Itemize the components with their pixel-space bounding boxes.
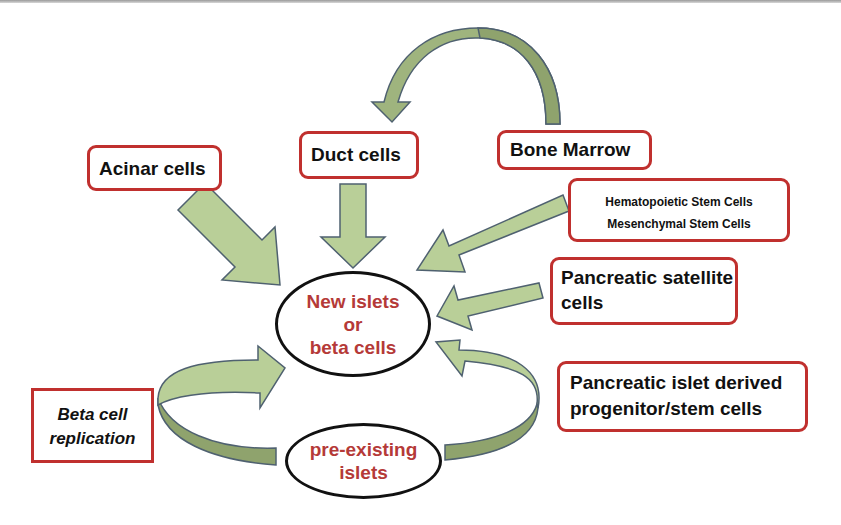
- node-new-islets-line2: or: [344, 313, 363, 336]
- node-bone-marrow-label: Bone Marrow: [510, 139, 649, 161]
- node-new-islets-line3: beta cells: [310, 336, 397, 359]
- arrow-stem-cells-to-center: [417, 195, 569, 272]
- node-pre-existing-islets: pre-existing islets: [285, 423, 442, 499]
- node-pre-existing-line1: pre-existing: [310, 438, 418, 461]
- node-islet-progenitor: Pancreatic islet derived progenitor/stem…: [557, 361, 808, 432]
- node-progenitor-line1: Pancreatic islet derived: [570, 370, 805, 396]
- arc-arrow-bone-marrow-to-duct: [372, 28, 560, 124]
- node-replication-line1: Beta cell: [34, 403, 151, 427]
- node-duct-cells: Duct cells: [299, 131, 419, 179]
- loop-arrow-islet-progenitor: [436, 340, 539, 460]
- node-new-islets-line1: New islets: [307, 290, 400, 313]
- node-bone-marrow: Bone Marrow: [497, 130, 652, 170]
- node-pancreatic-satellite: Pancreatic satellite cells: [550, 257, 738, 325]
- node-satellite-line1: Pancreatic satellite: [561, 265, 735, 290]
- node-pre-existing-line2: islets: [339, 461, 388, 484]
- node-duct-cells-label: Duct cells: [311, 144, 416, 166]
- node-acinar-cells: Acinar cells: [87, 145, 222, 191]
- node-stem-cells: Hematopoietic Stem Cells Mesenchymal Ste…: [568, 178, 790, 242]
- arrow-acinar-to-center: [178, 183, 280, 285]
- node-satellite-line2: cells: [561, 290, 735, 315]
- node-mesenchymal-label: Mesenchymal Stem Cells: [571, 213, 787, 235]
- node-progenitor-line2: progenitor/stem cells: [570, 396, 805, 422]
- node-new-islets: New islets or beta cells: [275, 271, 431, 377]
- loop-arrow-replication: [158, 346, 285, 465]
- node-beta-cell-replication: Beta cell replication: [31, 388, 154, 463]
- arrow-duct-to-center: [321, 184, 385, 268]
- node-replication-line2: replication: [34, 427, 151, 451]
- node-acinar-cells-label: Acinar cells: [99, 158, 219, 180]
- arrow-satellite-to-center: [437, 283, 543, 330]
- node-hematopoietic-label: Hematopoietic Stem Cells: [571, 191, 787, 213]
